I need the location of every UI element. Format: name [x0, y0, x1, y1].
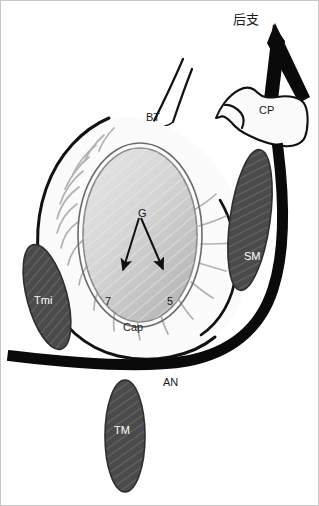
label-capsule: Cap — [123, 322, 143, 333]
label-teres-major: TM — [114, 425, 130, 436]
label-biceps-tendon: BT — [146, 112, 160, 123]
subscapularis-muscle-shape — [220, 147, 279, 293]
label-glenoid: G — [138, 208, 147, 219]
label-coracoid-process: CP — [259, 105, 274, 116]
label-axillary-nerve: AN — [163, 377, 178, 388]
label-subscapularis: SM — [244, 251, 261, 262]
glenoid-shape — [78, 143, 202, 327]
label-clock-seven: 7 — [105, 296, 111, 307]
label-teres-minor: Tmi — [34, 295, 52, 306]
teres-major-muscle-shape — [105, 380, 145, 492]
anatomy-illustration — [1, 1, 319, 506]
coracoid-process-shape — [216, 88, 308, 147]
label-clock-five: 5 — [167, 296, 173, 307]
label-posterior-branch: 后支 — [233, 13, 259, 26]
anatomical-figure: 后支 CP BT G SM Tmi 7 5 Cap AN TM — [0, 0, 319, 506]
